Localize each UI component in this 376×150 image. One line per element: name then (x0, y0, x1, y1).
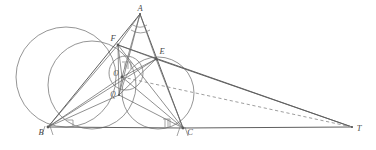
label-B: B (38, 127, 43, 137)
label-T: T (357, 123, 363, 133)
label-C: C (187, 127, 193, 137)
segment-A-F (118, 14, 140, 45)
segment-E-B (48, 59, 156, 127)
point-dot-B (47, 126, 50, 129)
base-extension-C-T (183, 127, 352, 128)
segment-B-Q (48, 95, 119, 127)
geometry-figure: A B C E F O Q T (0, 0, 376, 150)
segment-C-Q (119, 95, 183, 128)
point-dot-O (121, 76, 124, 79)
geometry-diagram-canvas: A B C E F O Q T (0, 0, 376, 150)
point-dot-A (139, 13, 141, 15)
segment-B-F (48, 45, 118, 127)
label-A: A (136, 3, 143, 13)
label-Q: Q (110, 90, 116, 99)
point-dot-F (117, 44, 120, 47)
point-dot-E (155, 58, 158, 61)
point-dot-Q (118, 94, 120, 96)
dashed-O-to-T (122, 77, 352, 127)
segment-A-E (140, 14, 156, 59)
point-dot-T (351, 126, 353, 128)
right-angle-mark-C (163, 119, 170, 127)
label-F: F (109, 33, 116, 43)
point-dot-C (182, 127, 185, 130)
label-E: E (158, 46, 165, 56)
label-O: O (113, 69, 119, 78)
segment-B-O (48, 77, 122, 127)
segment-C-E (156, 59, 183, 128)
side-BC (48, 127, 183, 128)
